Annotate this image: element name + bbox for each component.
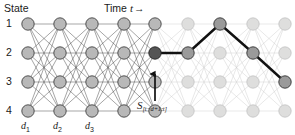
trellis-node bbox=[54, 47, 66, 59]
axis-label-time: Time t→ bbox=[104, 3, 144, 14]
trellis-node bbox=[214, 76, 226, 88]
trellis-node bbox=[182, 47, 194, 59]
trellis-node bbox=[22, 76, 34, 88]
trellis-node bbox=[22, 18, 34, 30]
trellis-node bbox=[22, 47, 34, 59]
trellis-node bbox=[279, 18, 291, 30]
trellis-node bbox=[214, 105, 226, 117]
state-row-label-2: 2 bbox=[6, 47, 12, 58]
trellis-node bbox=[279, 105, 291, 117]
window-annotation: S[t−d+1:t] bbox=[137, 100, 167, 113]
trellis-node bbox=[182, 18, 194, 30]
trellis-node bbox=[247, 18, 259, 30]
trellis-node bbox=[118, 76, 130, 88]
trellis-node bbox=[118, 105, 130, 117]
state-row-label-1: 1 bbox=[6, 18, 12, 29]
trellis-node bbox=[86, 47, 98, 59]
trellis-node bbox=[86, 105, 98, 117]
trellis-figure: State Time t→ 1234 d1d2d3 S[t−d+1:t] bbox=[0, 0, 295, 135]
trellis-node bbox=[182, 76, 194, 88]
depth-label-d2: d2 bbox=[53, 121, 62, 133]
trellis-node bbox=[182, 105, 194, 117]
depth-label-d3: d3 bbox=[85, 121, 94, 133]
trellis-node bbox=[247, 47, 259, 59]
trellis-node bbox=[279, 76, 291, 88]
trellis-edges-solid bbox=[28, 24, 155, 111]
state-row-label-3: 3 bbox=[6, 76, 12, 87]
trellis-node bbox=[86, 18, 98, 30]
trellis-node bbox=[22, 105, 34, 117]
trellis-node bbox=[54, 105, 66, 117]
trellis-node bbox=[86, 76, 98, 88]
trellis-node bbox=[279, 47, 291, 59]
axis-label-state: State bbox=[4, 3, 29, 14]
trellis-node bbox=[118, 18, 130, 30]
trellis-node bbox=[54, 18, 66, 30]
trellis-node bbox=[149, 18, 161, 30]
trellis-node bbox=[214, 18, 226, 30]
trellis-node bbox=[214, 47, 226, 59]
axis-label-time-text: Time bbox=[104, 2, 127, 14]
trellis-node bbox=[118, 47, 130, 59]
trellis-node bbox=[247, 105, 259, 117]
trellis-canvas bbox=[0, 0, 295, 135]
state-row-label-4: 4 bbox=[6, 105, 12, 116]
trellis-edges-faded bbox=[155, 24, 285, 111]
window-annotation-subscript: [t−d+1:t] bbox=[143, 105, 167, 112]
trellis-node bbox=[149, 47, 161, 59]
trellis-node bbox=[54, 76, 66, 88]
axis-label-time-arrow-icon: → bbox=[133, 2, 145, 14]
trellis-node bbox=[247, 76, 259, 88]
depth-label-d1: d1 bbox=[21, 121, 30, 133]
